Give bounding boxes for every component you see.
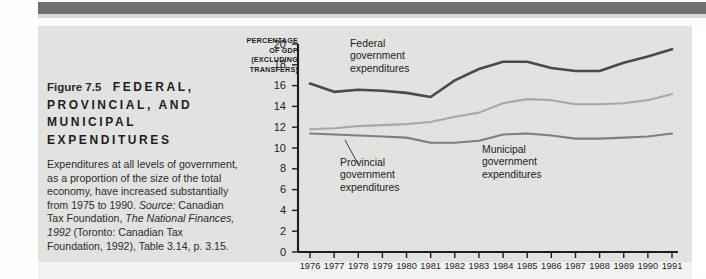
provincial-annotation-line-3: expenditures [340,182,400,194]
provincial-annotation-line-2: government [340,169,400,181]
page-right-margin [692,26,706,271]
figure-title-line-2: PROVINCIAL, AND [47,98,192,112]
y-axis-tick-label: 12 [268,122,286,133]
federal-annotation: Federal government expenditures [350,38,410,75]
figure-caption-block: Figure 7.5 FEDERAL, PROVINCIAL, AND MUNI… [47,78,243,253]
figure-title-line-1: FEDERAL, [113,80,194,94]
figure-title: Figure 7.5 FEDERAL, PROVINCIAL, AND MUNI… [47,78,243,148]
y-axis-tick-label: 6 [268,184,286,195]
y-axis-tick-label: 20 [268,39,286,50]
figure-number: Figure 7.5 [47,81,101,93]
figure-page: Figure 7.5 FEDERAL, PROVINCIAL, AND MUNI… [0,0,706,279]
municipal-annotation-line-2: government [482,156,542,168]
figure-title-line-4: EXPENDITURES [47,133,172,147]
x-axis-tick-label: 1991 [657,261,687,271]
y-axis-tick-label: 16 [268,80,286,91]
y-axis-tick-label: 18 [268,59,286,70]
federal-annotation-line-3: expenditures [350,63,410,75]
municipal-annotation-line-3: expenditures [482,169,542,181]
y-axis-tick-label: 10 [268,143,286,154]
federal-annotation-line-1: Federal [350,38,410,50]
caption-source-label: Source: [139,199,176,211]
y-axis-tick-label: 8 [268,163,286,174]
y-axis-tick-label: 14 [268,101,286,112]
chart: PERCENTAGE OF GDP (EXCLUDING TRANSFERS) … [232,32,684,264]
figure-title-line-3: MUNICIPAL [47,115,136,129]
plot-canvas [232,32,684,264]
y-axis-tick-label: 4 [268,205,286,216]
provincial-annotation-line-1: Provincial [340,157,400,169]
provincial-annotation: Provincial government expenditures [340,157,400,194]
y-axis-tick-label: 0 [268,247,286,258]
series-line-municipal [310,133,672,142]
figure-caption-text: Expenditures at all levels of government… [47,158,240,253]
page-header-band [38,2,706,14]
y-axis-tick-label: 2 [268,226,286,237]
federal-annotation-line-2: government [350,50,410,62]
series-line-provincial [310,94,672,129]
municipal-annotation: Municipal government expenditures [482,144,542,181]
page-header-shadow [38,14,706,18]
caption-source-post: (Toronto: Canadian Tax Foundation, 1992)… [47,226,229,252]
municipal-annotation-line-1: Municipal [482,144,542,156]
